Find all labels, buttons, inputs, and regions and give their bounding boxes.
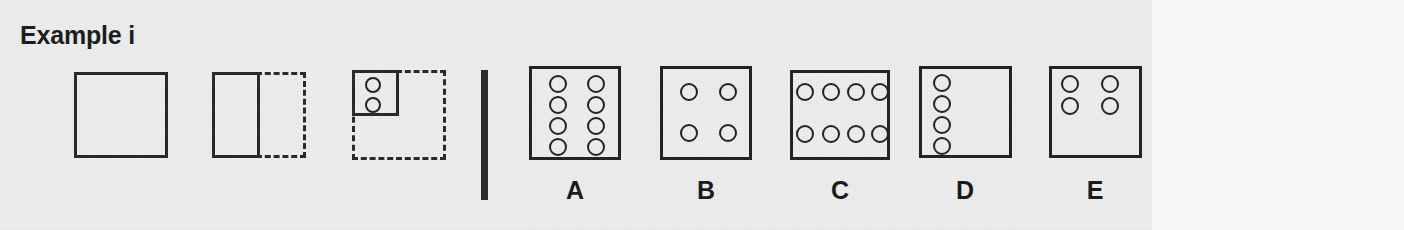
circle-marker bbox=[871, 83, 889, 101]
circle-marker bbox=[587, 96, 605, 114]
circle-marker bbox=[847, 125, 865, 143]
option-b-box[interactable] bbox=[660, 66, 752, 160]
option-d-label[interactable]: D bbox=[935, 176, 995, 205]
stem-figure-solid-box bbox=[74, 72, 168, 158]
circle-marker bbox=[822, 83, 840, 101]
circle-marker bbox=[933, 95, 951, 113]
circle-marker bbox=[933, 116, 951, 134]
circle-marker bbox=[587, 117, 605, 135]
page-right-margin bbox=[1152, 0, 1404, 230]
circle-marker bbox=[680, 83, 698, 101]
circle-marker bbox=[933, 74, 951, 92]
stem-options-divider bbox=[481, 70, 488, 200]
circle-marker bbox=[1061, 75, 1079, 93]
option-a-box[interactable] bbox=[529, 66, 621, 160]
circle-marker bbox=[796, 125, 814, 143]
circle-marker bbox=[822, 125, 840, 143]
circle-marker bbox=[680, 124, 698, 142]
circle-marker bbox=[587, 75, 605, 93]
example-item-page: Example i ABCDE bbox=[0, 0, 1404, 230]
circle-marker bbox=[871, 125, 889, 143]
page-title: Example i bbox=[20, 21, 135, 50]
circle-marker bbox=[1101, 97, 1119, 115]
circle-marker bbox=[847, 83, 865, 101]
circle-marker bbox=[549, 75, 567, 93]
circle-marker bbox=[549, 96, 567, 114]
circle-marker bbox=[1061, 97, 1079, 115]
option-a-label[interactable]: A bbox=[545, 176, 605, 205]
circle-marker bbox=[796, 83, 814, 101]
circle-marker bbox=[365, 77, 381, 93]
circle-marker bbox=[549, 138, 567, 156]
circle-marker bbox=[933, 137, 951, 155]
circle-marker bbox=[549, 117, 567, 135]
option-e-label[interactable]: E bbox=[1065, 176, 1125, 205]
stem-figure-solid-box bbox=[212, 72, 260, 158]
circle-marker bbox=[719, 124, 737, 142]
circle-marker bbox=[365, 97, 381, 113]
option-b-label[interactable]: B bbox=[676, 176, 736, 205]
option-c-label[interactable]: C bbox=[810, 176, 870, 205]
circle-marker bbox=[587, 138, 605, 156]
circle-marker bbox=[719, 83, 737, 101]
circle-marker bbox=[1101, 75, 1119, 93]
